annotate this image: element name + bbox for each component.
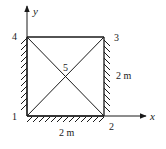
node-label-3: 3 xyxy=(114,32,119,43)
height-dimension-label: 2 m xyxy=(116,70,132,81)
truss-diagram: y x 4 3 5 1 2 2 m 2 m xyxy=(0,0,166,149)
width-dimension-label: 2 m xyxy=(59,127,75,138)
node-label-4: 4 xyxy=(12,31,17,42)
truss-members xyxy=(27,37,104,116)
y-axis-label: y xyxy=(32,5,38,17)
node-label-2: 2 xyxy=(109,121,114,132)
node-label-5: 5 xyxy=(63,62,68,73)
node-label-1: 1 xyxy=(12,111,17,122)
left-wall-support xyxy=(21,38,27,110)
x-axis-label: x xyxy=(149,110,155,122)
right-wall-support xyxy=(104,40,110,112)
ground-support xyxy=(27,117,104,122)
